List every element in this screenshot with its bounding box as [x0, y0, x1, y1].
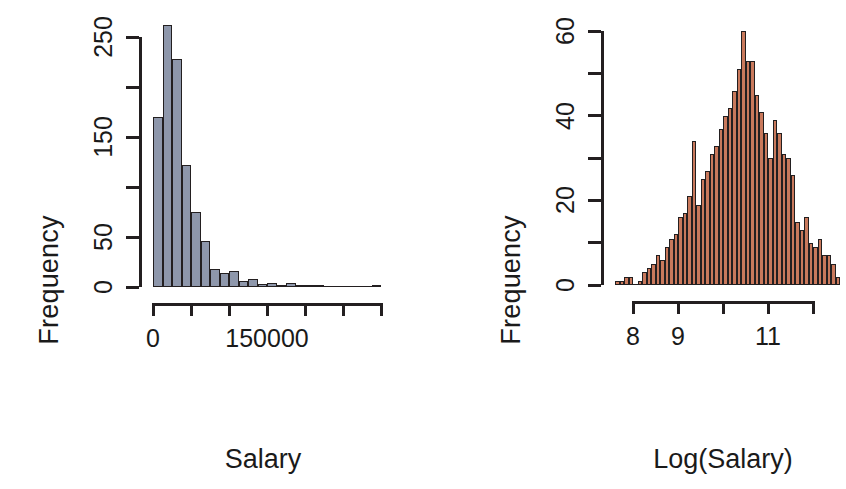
- y-axis-tick: [588, 72, 601, 75]
- x-axis-tick: [228, 303, 231, 316]
- bar: [372, 285, 382, 287]
- bar: [315, 285, 325, 287]
- bar-series-salary: [153, 22, 381, 287]
- x-axis-tick: [152, 303, 155, 316]
- bar: [163, 25, 173, 287]
- y-axis-tick: [588, 241, 601, 244]
- y-axis-tick-label: 60: [551, 18, 580, 46]
- bar: [153, 117, 163, 287]
- bar: [239, 281, 249, 287]
- y-axis-tick: [126, 136, 139, 139]
- bar: [229, 271, 239, 287]
- y-axis-tick: [126, 86, 139, 89]
- y-axis-tick-label: 0: [551, 278, 580, 292]
- x-axis-tick: [342, 303, 345, 316]
- x-axis-title-left: Salary: [225, 444, 302, 475]
- y-axis-tick-label: 50: [89, 223, 118, 251]
- bar: [210, 269, 220, 287]
- x-axis-tick-label: 11: [755, 322, 781, 351]
- salary-histogram-panel: Frequency Salary 050150250 0150000: [0, 0, 423, 489]
- x-axis-tick-label: 9: [671, 322, 685, 351]
- bar: [362, 286, 372, 287]
- y-axis-tick-label: 250: [89, 16, 118, 58]
- x-axis-tick: [380, 303, 383, 316]
- x-axis-tick-label: 150000: [225, 324, 308, 353]
- bar: [172, 59, 182, 287]
- bar: [191, 212, 201, 287]
- y-axis-line: [139, 37, 142, 287]
- bar: [296, 285, 306, 287]
- y-axis-tick: [126, 236, 139, 239]
- x-axis-tick: [677, 301, 680, 314]
- y-axis-tick-label: 20: [551, 187, 580, 215]
- bar: [277, 285, 287, 287]
- x-axis-tick-label: 0: [146, 324, 160, 353]
- plot-area-right: [615, 23, 840, 285]
- figure-root: Frequency Salary 050150250 0150000 Frequ…: [0, 0, 846, 489]
- x-axis-tick: [722, 301, 725, 314]
- y-axis-tick: [588, 114, 601, 117]
- x-axis-tick: [190, 303, 193, 316]
- x-axis-tick: [767, 301, 770, 314]
- x-axis-tick: [304, 303, 307, 316]
- y-axis-tick: [126, 36, 139, 39]
- x-axis-title-right: Log(Salary): [653, 444, 793, 475]
- y-axis-tick: [588, 157, 601, 160]
- y-axis-tick-label: 0: [89, 280, 118, 294]
- x-axis-tick-label: 8: [626, 322, 640, 351]
- y-axis-tick-label: 40: [551, 102, 580, 130]
- bar: [258, 284, 268, 287]
- y-axis-title-left: Frequency: [34, 215, 65, 344]
- plot-area-left: [153, 22, 381, 287]
- bar: [343, 286, 353, 287]
- bar: [836, 277, 841, 285]
- y-axis-tick-label: 150: [89, 116, 118, 158]
- bar: [305, 285, 315, 287]
- bar: [286, 283, 296, 287]
- bar-series-log-salary: [615, 23, 840, 285]
- y-axis-tick: [588, 30, 601, 33]
- bar: [267, 283, 277, 287]
- x-axis-tick: [812, 301, 815, 314]
- bar: [248, 279, 258, 287]
- bar: [324, 286, 334, 287]
- x-axis-tick: [266, 303, 269, 316]
- y-axis-line: [601, 31, 604, 285]
- y-axis-tick: [126, 186, 139, 189]
- y-axis-tick: [588, 199, 601, 202]
- y-axis-tick: [588, 284, 601, 287]
- bar: [334, 286, 344, 287]
- bar: [353, 286, 363, 287]
- bar: [220, 273, 230, 287]
- y-axis-tick: [126, 286, 139, 289]
- bar: [201, 241, 211, 287]
- bar: [182, 165, 192, 287]
- x-axis-tick: [632, 301, 635, 314]
- log-salary-histogram-panel: Frequency Log(Salary) 0204060 8911: [423, 0, 846, 489]
- y-axis-title-right: Frequency: [496, 215, 527, 344]
